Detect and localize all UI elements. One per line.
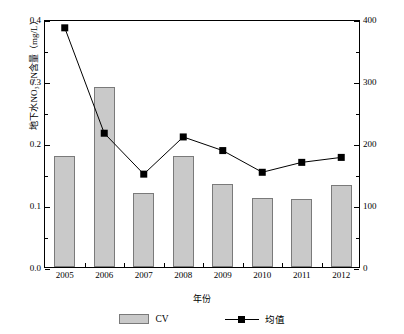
mean-marker (180, 133, 187, 140)
y-tick-label-right: 200 (363, 140, 377, 149)
y-tick-right (354, 269, 359, 270)
chart-legend: CV 均值 (0, 308, 404, 330)
y-tick-label-right: 300 (363, 78, 377, 87)
legend-label-mean: 均值 (265, 312, 285, 326)
y-tick-label-left: 0.3 (30, 78, 41, 87)
legend-bar-swatch-icon (119, 314, 149, 324)
x-tick-label: 2012 (318, 271, 364, 280)
legend-item-cv: CV (119, 314, 168, 324)
mean-marker (338, 154, 345, 161)
y-tick-label-left: 0.1 (30, 202, 41, 211)
mean-marker (219, 147, 226, 154)
y-tick-label-right: 100 (363, 202, 377, 211)
y-tick-label-left: 0.2 (30, 140, 41, 149)
mean-marker (140, 171, 147, 178)
line-series-mean (45, 21, 361, 269)
legend-line-marker-icon (225, 314, 259, 324)
y-tick-label-left: 0.0 (30, 264, 41, 273)
y-tick-label-right: 400 (363, 16, 377, 25)
mean-marker (61, 24, 68, 31)
y-tick-left (45, 269, 50, 270)
y-tick-label-left: 0.4 (30, 16, 41, 25)
mean-marker (101, 130, 108, 137)
legend-item-mean: 均值 (225, 312, 285, 326)
mean-polyline (65, 28, 342, 174)
plot-area: CV（%） 0.00.10.20.30.40100200300400200520… (44, 20, 360, 268)
legend-label-cv: CV (155, 314, 168, 324)
chart-figure: 地下水NO₃⁻-N含量（mg/L） 年份 CV（%） 0.00.10.20.30… (0, 0, 404, 334)
mean-marker (298, 159, 305, 166)
x-axis-label: 年份 (0, 292, 404, 305)
mean-marker (259, 169, 266, 176)
